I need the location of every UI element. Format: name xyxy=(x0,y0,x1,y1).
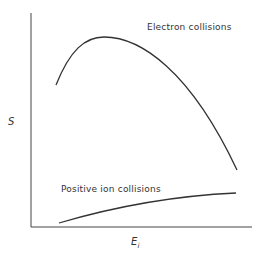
series-electron-collisions xyxy=(56,37,237,170)
chart xyxy=(0,0,261,260)
annotation-positive-ion-collisions: Positive ion collisions xyxy=(61,184,161,194)
x-axis-label: Ei xyxy=(131,236,140,250)
series-positive-ion-collisions xyxy=(59,193,236,223)
y-axis-label: S xyxy=(8,116,15,127)
annotation-electron-collisions: Electron collisions xyxy=(147,22,232,32)
x-axis-label-subscript: i xyxy=(138,242,140,250)
